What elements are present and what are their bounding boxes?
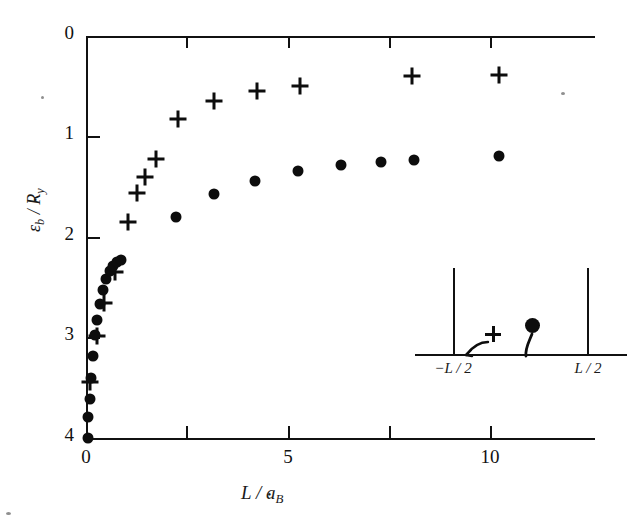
data-point-dot bbox=[335, 159, 346, 170]
y-tick-0 bbox=[88, 36, 100, 38]
x-tick-top-7p5 bbox=[389, 36, 391, 48]
data-point-dot bbox=[116, 255, 127, 266]
scan-speck-left bbox=[41, 96, 44, 99]
data-point-plus bbox=[249, 83, 266, 100]
data-point-dot bbox=[170, 211, 181, 222]
data-point-plus bbox=[148, 150, 165, 167]
x-tick-5 bbox=[288, 426, 290, 438]
data-point-dot bbox=[376, 156, 387, 167]
y-tick-label-4: 4 bbox=[34, 424, 74, 446]
x-tick-2p5 bbox=[186, 426, 188, 438]
inset-right-barrier bbox=[587, 268, 589, 356]
inset-electron-dot-icon bbox=[525, 318, 540, 333]
y-tick-label-1: 1 bbox=[34, 122, 74, 144]
data-point-plus bbox=[119, 213, 136, 230]
data-point-dot bbox=[408, 154, 419, 165]
data-point-dot bbox=[94, 299, 105, 310]
x-tick-7p5 bbox=[389, 426, 391, 438]
inset-hole-plus-icon bbox=[485, 326, 501, 342]
x-tick-label-0: 0 bbox=[66, 446, 106, 468]
data-point-plus bbox=[291, 78, 308, 95]
axis-bottom-spine bbox=[86, 438, 595, 440]
data-point-dot bbox=[84, 393, 95, 404]
data-point-dot bbox=[86, 372, 97, 383]
x-tick-top-2p5 bbox=[186, 36, 188, 48]
data-point-dot bbox=[494, 150, 505, 161]
data-point-dot bbox=[83, 411, 94, 422]
scan-speck-bottom bbox=[6, 512, 11, 515]
data-point-dot bbox=[82, 433, 93, 444]
data-point-plus bbox=[403, 68, 420, 85]
inset-label-right: L / 2 bbox=[558, 360, 618, 377]
x-tick-10 bbox=[490, 426, 492, 438]
data-point-dot bbox=[87, 350, 98, 361]
data-point-dot bbox=[209, 188, 220, 199]
plot-area: 0 1 2 3 4 0 5 10 bbox=[86, 36, 595, 440]
x-tick-label-10: 10 bbox=[470, 446, 510, 468]
data-point-dot bbox=[292, 165, 303, 176]
y-tick-label-0: 0 bbox=[34, 22, 74, 44]
y-tick-label-2: 2 bbox=[34, 223, 74, 245]
inset-left-barrier bbox=[453, 268, 455, 356]
inset-label-left: −L / 2 bbox=[423, 360, 483, 377]
data-point-dot bbox=[90, 329, 101, 340]
x-tick-top-5 bbox=[288, 36, 290, 48]
data-point-plus bbox=[491, 67, 508, 84]
x-axis-label: L / aB bbox=[241, 482, 283, 507]
axis-top-spine bbox=[86, 36, 595, 38]
data-point-dot bbox=[97, 285, 108, 296]
y-tick-1 bbox=[88, 136, 100, 138]
data-point-plus bbox=[137, 168, 154, 185]
data-point-plus bbox=[169, 111, 186, 128]
scan-speck-right bbox=[561, 92, 565, 95]
data-point-dot bbox=[250, 175, 261, 186]
data-point-dot bbox=[92, 315, 103, 326]
x-tick-label-5: 5 bbox=[268, 446, 308, 468]
inset-quantum-well: −L / 2 L / 2 bbox=[441, 268, 616, 386]
y-tick-label-3: 3 bbox=[34, 323, 74, 345]
inset-baseline bbox=[415, 354, 627, 356]
data-point-plus bbox=[128, 184, 145, 201]
y-tick-2 bbox=[88, 237, 100, 239]
x-tick-top-10 bbox=[490, 36, 492, 48]
data-point-plus bbox=[206, 93, 223, 110]
